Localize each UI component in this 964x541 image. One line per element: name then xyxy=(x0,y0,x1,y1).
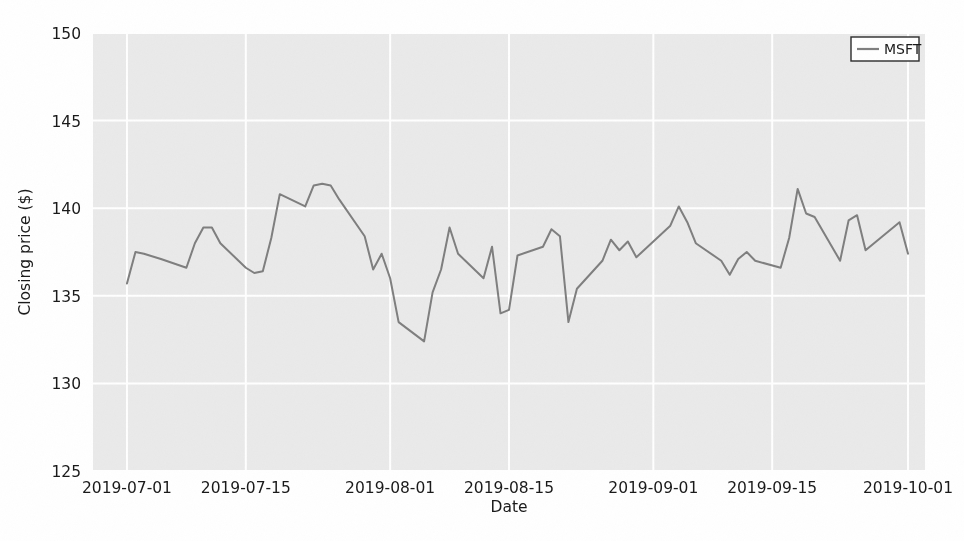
y-tick-label-140: 140 xyxy=(51,200,81,218)
x-tick-label-2019-07-01: 2019-07-01 xyxy=(82,479,172,497)
y-tick-label-145: 145 xyxy=(51,113,81,131)
chart-legend[interactable]: MSFT xyxy=(851,37,922,61)
line-chart: 125130135140145150 2019-07-012019-07-152… xyxy=(0,0,964,541)
x-tick-label-2019-09-15: 2019-09-15 xyxy=(727,479,817,497)
x-tick-label-2019-09-01: 2019-09-01 xyxy=(608,479,698,497)
y-tick-label-130: 130 xyxy=(51,375,81,393)
y-tick-label-150: 150 xyxy=(51,25,81,43)
x-tick-label-2019-10-01: 2019-10-01 xyxy=(863,479,953,497)
x-tick-label-2019-08-15: 2019-08-15 xyxy=(464,479,554,497)
y-tick-label-125: 125 xyxy=(51,463,81,481)
x-axis-title: Date xyxy=(490,498,527,516)
x-tick-label-2019-08-01: 2019-08-01 xyxy=(345,479,435,497)
figure-canvas: 125130135140145150 2019-07-012019-07-152… xyxy=(0,0,964,541)
x-tick-label-2019-07-15: 2019-07-15 xyxy=(201,479,291,497)
y-axis-title: Closing price ($) xyxy=(16,188,34,315)
legend-label-msft: MSFT xyxy=(884,41,922,57)
y-tick-label-135: 135 xyxy=(51,288,81,306)
